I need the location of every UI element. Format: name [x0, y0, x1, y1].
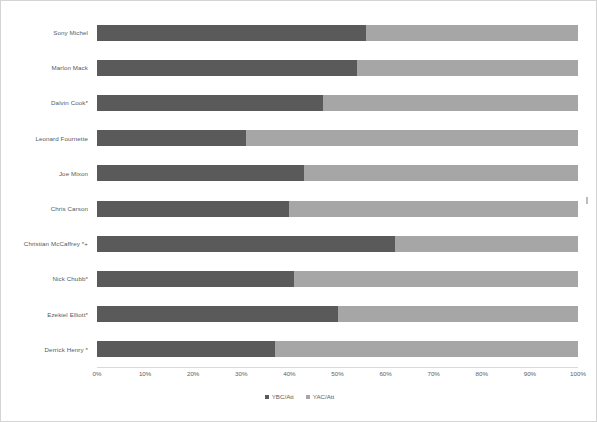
x-axis-tick: 100% [570, 370, 586, 377]
legend-item[interactable]: YBC/Att [265, 393, 294, 400]
category-label: Ezekiel Elliott* [1, 297, 93, 332]
plot-area [97, 15, 578, 367]
stacked-bar [97, 25, 578, 41]
stacked-bar [97, 95, 578, 111]
bar-segment-ybc [97, 165, 304, 181]
legend-swatch-icon [265, 395, 269, 399]
bar-row [97, 261, 578, 296]
bar-segment-ybc [97, 271, 294, 287]
legend-label: YBC/Att [272, 393, 294, 400]
bar-row [97, 332, 578, 367]
x-axis-tick: 10% [139, 370, 151, 377]
bar-segment-yac [338, 306, 579, 322]
x-axis-line [97, 367, 578, 368]
bar-segment-ybc [97, 306, 338, 322]
bar-segment-yac [275, 341, 578, 357]
bar-segment-yac [289, 201, 578, 217]
x-axis-tick: 0% [93, 370, 102, 377]
chart-legend: YBC/AttYAC/Att [1, 393, 597, 400]
bar-segment-yac [366, 25, 578, 41]
bar-segment-ybc [97, 130, 246, 146]
category-label: Leonard Fournette [1, 121, 93, 156]
bar-row [97, 50, 578, 85]
bar-row [97, 15, 578, 50]
bar-row [97, 226, 578, 261]
bar-segment-ybc [97, 60, 357, 76]
right-edge-tick-mark [586, 197, 588, 204]
stacked-bar [97, 271, 578, 287]
x-axis-tick: 40% [283, 370, 295, 377]
category-label: Dalvin Cook* [1, 85, 93, 120]
stacked-bar [97, 60, 578, 76]
category-label: Joe Mixon [1, 156, 93, 191]
bar-row [97, 156, 578, 191]
bar-row [97, 191, 578, 226]
x-axis-tick-labels: 0%10%20%30%40%50%60%70%80%90%100% [97, 370, 578, 382]
x-axis-tick: 60% [379, 370, 391, 377]
bar-segment-yac [357, 60, 578, 76]
stacked-bar [97, 341, 578, 357]
category-label: Christian McCaffrey *+ [1, 226, 93, 261]
category-label: Chris Carson [1, 191, 93, 226]
category-label: Nick Chubb* [1, 261, 93, 296]
bar-segment-yac [304, 165, 578, 181]
stacked-bar [97, 201, 578, 217]
bar-segment-ybc [97, 201, 289, 217]
bar-segment-yac [246, 130, 578, 146]
bar-segment-yac [294, 271, 578, 287]
legend-label: YAC/Att [313, 393, 335, 400]
chart-container: Sony MichelMarlon MackDalvin Cook*Leonar… [0, 0, 597, 422]
bar-row [97, 85, 578, 120]
x-axis-tick: 30% [235, 370, 247, 377]
category-label: Marlon Mack [1, 50, 93, 85]
bar-segment-ybc [97, 341, 275, 357]
x-axis-tick: 50% [331, 370, 343, 377]
bar-segment-ybc [97, 95, 323, 111]
x-axis-tick: 20% [187, 370, 199, 377]
x-axis-tick: 70% [427, 370, 439, 377]
bar-segment-ybc [97, 25, 366, 41]
category-label: Sony Michel [1, 15, 93, 50]
category-label: Derrick Henry * [1, 332, 93, 367]
bar-row [97, 121, 578, 156]
bar-segment-yac [323, 95, 578, 111]
legend-item[interactable]: YAC/Att [306, 393, 335, 400]
stacked-bar [97, 236, 578, 252]
y-axis-category-labels: Sony MichelMarlon MackDalvin Cook*Leonar… [1, 15, 93, 367]
bar-segment-ybc [97, 236, 395, 252]
stacked-bar [97, 130, 578, 146]
legend-swatch-icon [306, 395, 310, 399]
stacked-bar [97, 165, 578, 181]
x-axis-tick: 80% [476, 370, 488, 377]
bar-row [97, 297, 578, 332]
bar-segment-yac [395, 236, 578, 252]
x-axis-tick: 90% [524, 370, 536, 377]
stacked-bar [97, 306, 578, 322]
